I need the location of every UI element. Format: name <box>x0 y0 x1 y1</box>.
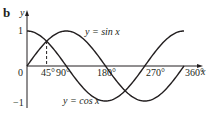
trig-chart: b y x 0 45° 90° 180° 270° 360° 1 −1 y = … <box>0 0 212 126</box>
cos-curve-label: y = cos x <box>62 95 100 106</box>
tick-label-0: 0 <box>18 67 23 78</box>
y-axis-arrow-icon <box>25 10 29 16</box>
tick-label-1: 1 <box>18 25 23 36</box>
tick-label-360: 360° <box>185 67 204 78</box>
y-axis-label: y <box>19 7 25 18</box>
panel-label: b <box>3 5 10 20</box>
tick-label-neg1: −1 <box>13 97 24 108</box>
sin-curve-label: y = sin x <box>84 26 120 37</box>
tick-label-45: 45° <box>41 67 55 78</box>
tick-label-270: 270° <box>146 67 165 78</box>
